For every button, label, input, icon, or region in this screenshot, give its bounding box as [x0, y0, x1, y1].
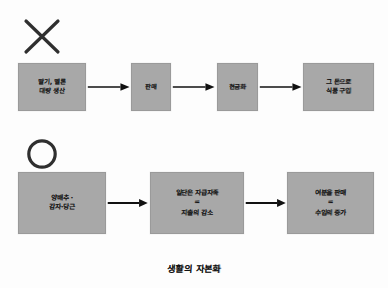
flow-box[interactable]: 양배추 · 감자·당근 — [18, 172, 106, 234]
flow-box[interactable]: 일단은 자급자족 = 지출의 감소 — [150, 172, 244, 234]
box-text-line: 판매 — [135, 83, 167, 92]
box-text-line: 수입의 증가 — [291, 208, 371, 218]
box-text-line: 감자·당근 — [22, 202, 103, 212]
box-text-line: 지출의 감소 — [153, 208, 240, 218]
x-mark-icon — [22, 18, 62, 56]
flow-row-bad: 딸기, 멜론 대량 생산 판매 현금화 — [18, 63, 374, 111]
diagram-caption: 생활의 자본화 — [0, 262, 388, 275]
flow-box[interactable]: 딸기, 멜론 대량 생산 — [18, 63, 86, 111]
arrow-right-icon — [171, 82, 216, 92]
arrow-right-icon — [86, 82, 131, 92]
box-text-line: 대량 생산 — [22, 87, 83, 96]
flow-box[interactable]: 현금화 — [217, 63, 258, 111]
paper-sheet: 딸기, 멜론 대량 생산 판매 현금화 — [0, 0, 388, 288]
flow-row-good: 양배추 · 감자·당근 일단은 자급자족 = 지출의 감소 여분을 판매 = 수… — [18, 172, 374, 234]
flow-box[interactable]: 판매 — [131, 63, 171, 111]
o-mark-icon — [25, 137, 59, 171]
box-text-line: 현금화 — [220, 83, 253, 92]
box-text-line: 식품 구입 — [307, 87, 371, 97]
arrow-right-icon — [106, 198, 150, 208]
flow-box[interactable]: 여분을 판매 = 수입의 증가 — [287, 172, 374, 234]
box-text-line: = — [153, 197, 240, 209]
box-text-line: = — [291, 197, 371, 209]
arrow-right-icon — [258, 82, 303, 92]
flow-box[interactable]: 그 돈으로 식품 구입 — [303, 63, 374, 111]
arrow-right-icon — [244, 198, 288, 208]
